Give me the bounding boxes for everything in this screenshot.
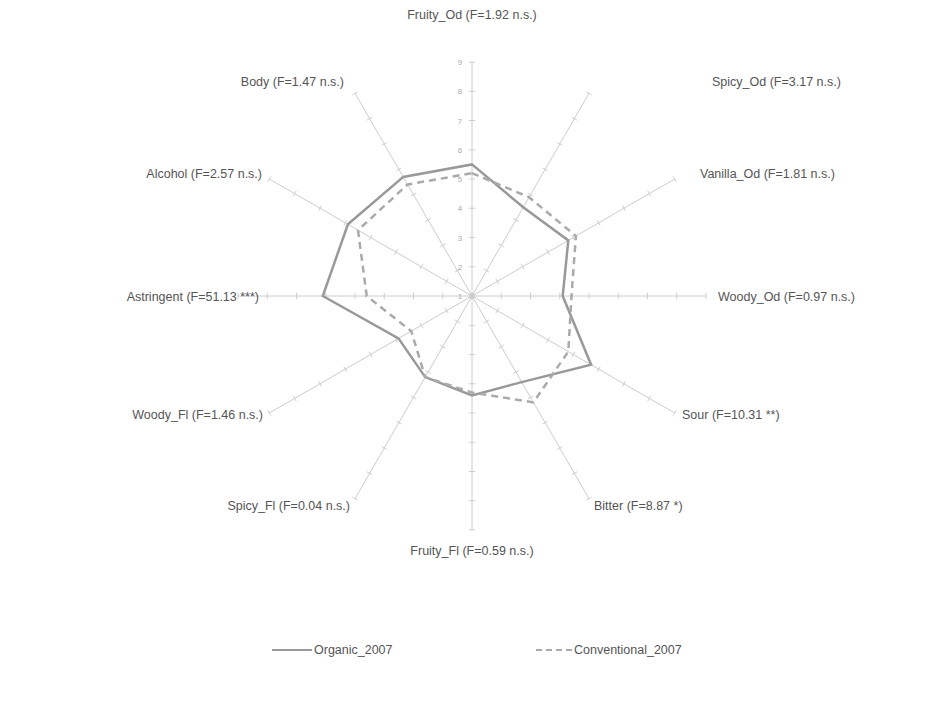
tick-mark <box>572 117 577 120</box>
tick-mark <box>352 92 357 95</box>
tick-mark <box>268 410 271 415</box>
axis-label: Woody_Fl (F=1.46 n.s.) <box>132 408 263 422</box>
tick-mark <box>557 143 562 146</box>
tick-mark <box>648 396 651 401</box>
tick-mark <box>420 323 423 328</box>
tick-mark <box>411 396 416 399</box>
tick-mark <box>455 320 460 323</box>
tick-mark <box>344 220 347 225</box>
tick-mark <box>543 421 548 424</box>
radar-chart: 123456789 <box>0 0 933 708</box>
tick-mark <box>499 244 504 247</box>
axis-label: Body (F=1.47 n.s.) <box>241 75 344 89</box>
tick-label: 3 <box>458 234 463 243</box>
tick-mark <box>586 92 591 95</box>
tick-mark <box>521 323 524 328</box>
tick-mark <box>344 367 347 372</box>
tick-mark <box>557 446 562 449</box>
legend-label-organic: Organic_2007 <box>314 643 393 657</box>
tick-label: 6 <box>458 146 463 155</box>
tick-mark <box>319 206 322 211</box>
axis-label: Alcohol (F=2.57 n.s.) <box>146 167 262 181</box>
tick-mark <box>396 168 401 171</box>
tick-mark <box>293 396 296 401</box>
tick-mark <box>546 250 549 255</box>
tick-mark <box>396 421 401 424</box>
axis-label: Bitter (F=8.87 *) <box>594 499 683 513</box>
legend-item-organic: Organic_2007 <box>272 643 393 657</box>
tick-mark <box>673 176 676 181</box>
axis-label: Astringent (F=51.13 ***) <box>127 290 259 304</box>
axis-label: Vanilla_Od (F=1.81 n.s.) <box>700 167 835 181</box>
tick-mark <box>513 370 518 373</box>
tick-mark <box>484 269 489 272</box>
tick-mark <box>496 308 499 313</box>
tick-label: 4 <box>458 204 463 213</box>
axis-label: Woody_Od (F=0.97 n.s.) <box>718 290 855 304</box>
tick-label: 2 <box>458 263 463 272</box>
tick-mark <box>426 370 431 373</box>
tick-mark <box>543 168 548 171</box>
tick-mark <box>586 497 591 500</box>
tick-mark <box>528 396 533 399</box>
legend-label-conventional: Conventional_2007 <box>574 643 682 657</box>
axis-label: Spicy_Fl (F=0.04 n.s.) <box>227 499 350 513</box>
tick-mark <box>484 320 489 323</box>
tick-mark <box>513 219 518 222</box>
tick-mark <box>546 337 549 342</box>
tick-label: 9 <box>458 58 463 67</box>
tick-mark <box>367 117 372 120</box>
legend-item-conventional: Conventional_2007 <box>536 643 682 657</box>
tick-mark <box>499 345 504 348</box>
tick-mark <box>382 446 387 449</box>
series-organic_2007 <box>323 164 591 395</box>
tick-label: 8 <box>458 87 463 96</box>
tick-mark <box>395 250 398 255</box>
tick-mark <box>382 143 387 146</box>
tick-mark <box>268 176 271 181</box>
tick-mark <box>293 191 296 196</box>
axis-label: Sour (F=10.31 **) <box>682 408 780 422</box>
tick-mark <box>496 279 499 284</box>
tick-mark <box>445 308 448 313</box>
tick-mark <box>597 220 600 225</box>
tick-mark <box>622 381 625 386</box>
tick-mark <box>597 367 600 372</box>
tick-mark <box>622 206 625 211</box>
tick-mark <box>673 410 676 415</box>
tick-label: 1 <box>458 292 463 301</box>
tick-mark <box>521 264 524 269</box>
tick-mark <box>411 193 416 196</box>
tick-mark <box>352 497 357 500</box>
tick-mark <box>420 264 423 269</box>
tick-mark <box>369 352 372 357</box>
tick-mark <box>648 191 651 196</box>
tick-mark <box>572 352 575 357</box>
tick-label: 7 <box>458 117 463 126</box>
tick-mark <box>319 381 322 386</box>
dashed-line-icon <box>536 645 572 655</box>
tick-mark <box>440 345 445 348</box>
tick-mark <box>367 472 372 475</box>
tick-mark <box>445 279 448 284</box>
tick-mark <box>369 235 372 240</box>
tick-mark <box>426 219 431 222</box>
axis-label: Fruity_Fl (F=0.59 n.s.) <box>410 544 533 558</box>
axis-label: Fruity_Od (F=1.92 n.s.) <box>407 8 537 22</box>
axis-label: Spicy_Od (F=3.17 n.s.) <box>712 75 841 89</box>
tick-mark <box>572 472 577 475</box>
tick-mark <box>440 244 445 247</box>
solid-line-icon <box>272 645 312 655</box>
